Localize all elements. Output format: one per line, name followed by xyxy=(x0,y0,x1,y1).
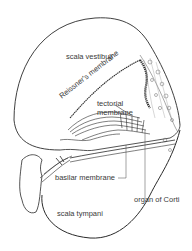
modiolus-bone xyxy=(20,155,42,213)
label-tectorial-membrane: tectorial membrane xyxy=(97,100,133,117)
scala-tympani-lower-outline xyxy=(42,130,180,238)
basilar-leader xyxy=(118,145,126,178)
basilar-membrane-line xyxy=(70,140,175,158)
scala-tympani-outline xyxy=(14,120,60,150)
label-basilar-membrane: basilar membrane xyxy=(55,174,115,182)
label-scala-tympani: scala tympani xyxy=(57,210,103,218)
label-organ-of-corti: organ of Corti xyxy=(134,196,179,204)
label-tectorial-line2: membrane xyxy=(97,109,133,118)
spiral-ligament xyxy=(140,60,150,108)
